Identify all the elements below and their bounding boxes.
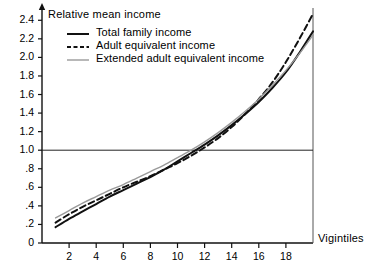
- x-tick-label: 4: [86, 250, 106, 262]
- legend-swatch-solid: [66, 26, 90, 38]
- x-tick-label: 14: [222, 250, 242, 262]
- x-tick-label: 16: [249, 250, 269, 262]
- y-tick-label: .4: [8, 199, 34, 211]
- chart-legend: Total family income Adult equivalent inc…: [66, 25, 264, 64]
- legend-item-total-family-income: Total family income: [66, 25, 264, 38]
- y-tick-label: 2.4: [8, 13, 34, 25]
- legend-item-extended-adult-equivalent-income: Extended adult equivalent income: [66, 51, 264, 64]
- y-tick-label: 1.8: [8, 69, 34, 81]
- legend-label-adult-equivalent-income: Adult equivalent income: [96, 39, 215, 51]
- y-tick-label: .6: [8, 180, 34, 192]
- y-tick-label: 2.0: [8, 50, 34, 62]
- y-tick-label: 1.0: [8, 143, 34, 155]
- legend-swatch-light-solid: [66, 52, 90, 64]
- x-tick-label: 6: [113, 250, 133, 262]
- legend-label-extended-adult-equivalent-income: Extended adult equivalent income: [96, 52, 264, 64]
- y-tick-label: 0: [8, 236, 34, 248]
- y-tick-label: .2: [8, 217, 34, 229]
- legend-label-total-family-income: Total family income: [96, 26, 191, 38]
- x-tick-label: 2: [59, 250, 79, 262]
- chart-container: Relative mean income Vigintiles Total fa…: [0, 0, 382, 272]
- legend-item-adult-equivalent-income: Adult equivalent income: [66, 38, 264, 51]
- x-tick-label: 12: [195, 250, 215, 262]
- x-tick-label: 10: [168, 250, 188, 262]
- y-tick-label: 2.2: [8, 32, 34, 44]
- y-tick-label: 1.2: [8, 125, 34, 137]
- x-tick-label: 8: [140, 250, 160, 262]
- x-tick-label: 18: [276, 250, 296, 262]
- legend-swatch-dashed: [66, 39, 90, 51]
- y-tick-label: .8: [8, 162, 34, 174]
- x-axis-title: Vigintiles: [318, 232, 364, 244]
- y-tick-label: 1.4: [8, 106, 34, 118]
- y-tick-label: 1.6: [8, 88, 34, 100]
- y-axis-title: Relative mean income: [48, 8, 161, 20]
